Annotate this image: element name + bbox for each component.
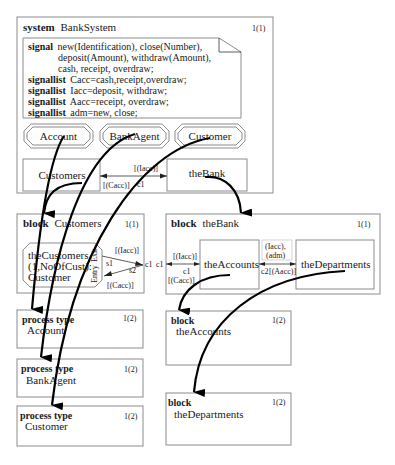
block-ref-theaccounts-label: theAccounts (204, 258, 259, 270)
block-theaccounts[interactable]: block theAccounts 1(2) (166, 311, 291, 365)
route-cacc-label: [(Cacc)] (107, 281, 134, 290)
block-page-number: 1(2) (272, 316, 286, 325)
channel-c1-start: c1 (156, 260, 164, 269)
block-ref-customers-label: Customers (38, 169, 85, 181)
route-iacc-label: [(Iacc)] (115, 246, 139, 255)
channel-c1-bottom-label: [(Cacc)] (103, 181, 130, 190)
process-type-keyword: process type (21, 363, 74, 374)
block-thebank-diagram: block theBank 1(1) c1 [(Iacc)] c1 [(Cacc… (156, 214, 380, 294)
block-name: theDepartments (174, 408, 244, 420)
process-type-customer[interactable]: process type Customer 1(2) (17, 406, 143, 446)
block-thedepartments[interactable]: block theDepartments 1(2) (166, 393, 291, 445)
signallist-iacc: signallist Iacc=deposit, withdraw; (28, 85, 167, 96)
c2-top-label-2: (adm) (266, 251, 285, 260)
signallist-aacc: signallist Aacc=receipt, overdraw; (28, 96, 169, 107)
block-ref-thedepartments-label: theDepartments (301, 258, 371, 270)
c1-name-label: c1 (183, 267, 191, 276)
signallist-adm: signallist adm=new, close; (28, 107, 138, 118)
type-ref-bankagent-label: BankAgent (109, 130, 159, 142)
signal-line-3: cash, receipt, overdraw; (58, 63, 154, 74)
system-diagram: system BankSystem 1(1) signal new(Identi… (17, 17, 273, 193)
route-s1-label: s1 (106, 259, 113, 268)
c2-name-label: c2 (261, 267, 269, 276)
route-s2-label: s2 (129, 266, 136, 275)
block-keyword: block (168, 397, 192, 408)
block-thebank-page-number: 1(1) (357, 220, 371, 229)
block-customers-title: block Customers (23, 217, 102, 229)
process-type-account[interactable]: process type Account 1(2) (17, 310, 143, 348)
block-name: theAccounts (176, 325, 231, 337)
type-ref-bankagent[interactable]: BankAgent (100, 124, 169, 148)
c1-top-label: [(Iacc)] (173, 252, 197, 261)
type-ref-customer-label: Customer (189, 130, 232, 142)
gate-entry: Entry (90, 265, 99, 283)
process-type-bankagent[interactable]: process type BankAgent 1(2) (17, 359, 143, 397)
c2-top-label-1: (Iacc), (265, 242, 286, 251)
channel-c1-endpoint: c1 (145, 260, 153, 269)
system-title: system BankSystem (23, 21, 117, 33)
signallist-cacc: signallist Cacc=cash,receipt,overdraw; (28, 74, 187, 85)
type-ref-customer[interactable]: Customer (175, 124, 245, 148)
process-type-page-number: 1(2) (124, 412, 138, 421)
process-type-page-number: 1(2) (124, 365, 138, 374)
system-page-number: 1(1) (252, 24, 266, 33)
c1-bottom-label: [(Cacc)] (168, 276, 195, 285)
process-type-name: Customer (25, 420, 68, 432)
c2-bottom-label: [(Aacc)] (269, 267, 296, 276)
process-type-name: BankAgent (26, 374, 76, 386)
system-keyword: system (23, 21, 55, 33)
block-customers-page-number: 1(1) (125, 220, 139, 229)
process-type-page-number: 1(2) (123, 314, 137, 323)
system-name: BankSystem (61, 21, 117, 33)
block-page-number: 1(2) (272, 398, 286, 407)
sdl-diagram: system BankSystem 1(1) signal new(Identi… (0, 0, 395, 465)
type-ref-account-label: Account (40, 130, 77, 142)
block-thebank-title: block theBank (171, 217, 240, 229)
